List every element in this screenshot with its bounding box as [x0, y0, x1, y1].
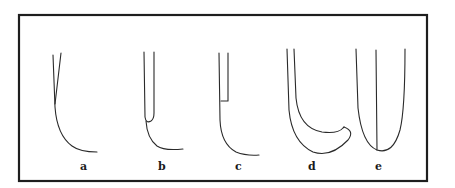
- panel-b-drawing: [144, 52, 183, 150]
- panel-label-e: e: [375, 160, 382, 173]
- panel-a-drawing: [53, 53, 97, 152]
- panel-label-d: d: [308, 160, 316, 173]
- panel-label-b: b: [158, 160, 166, 173]
- panel-e-drawing: [356, 49, 405, 151]
- figure-frame: [19, 15, 427, 181]
- diagram-figure: a b c d e: [0, 0, 455, 188]
- panel-label-a: a: [80, 160, 87, 173]
- panel-c-drawing: [219, 53, 259, 155]
- panel-d-drawing: [287, 49, 351, 154]
- panel-label-c: c: [235, 160, 242, 173]
